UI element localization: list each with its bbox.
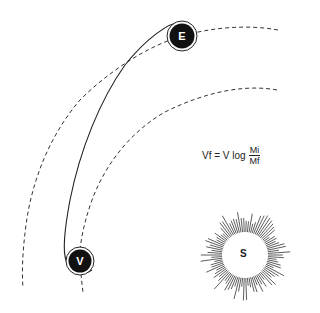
- fraction-numerator: Mi: [249, 145, 261, 156]
- rocket-equation: Vf = V log Mi Mf: [202, 145, 260, 166]
- earth-label: E: [178, 30, 185, 42]
- formula-lhs: Vf = V log: [202, 150, 246, 161]
- earth-planet: E: [167, 21, 197, 51]
- fraction-denominator: Mf: [249, 156, 259, 166]
- sun-label: S: [240, 248, 247, 259]
- venus-planet: V: [66, 247, 94, 275]
- mass-ratio-fraction: Mi Mf: [249, 145, 261, 166]
- venus-label: V: [76, 255, 84, 267]
